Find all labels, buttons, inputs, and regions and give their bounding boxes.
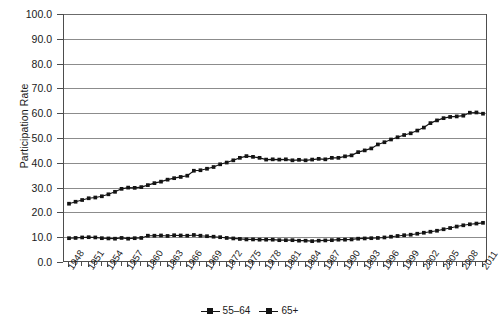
series-marker xyxy=(231,158,235,162)
legend-label: 65+ xyxy=(281,306,298,316)
series-marker xyxy=(429,230,433,234)
series-marker xyxy=(251,238,255,242)
y-tick-label: 0.0 xyxy=(37,257,52,267)
series-marker xyxy=(448,226,452,230)
series-marker xyxy=(363,149,367,153)
series-marker xyxy=(435,119,439,123)
y-tick-label: 30.0 xyxy=(32,183,52,193)
series-marker xyxy=(304,239,308,243)
series-marker xyxy=(435,229,439,233)
series-marker xyxy=(238,237,242,241)
series-marker xyxy=(448,115,452,119)
series-marker xyxy=(139,236,143,240)
series-marker xyxy=(475,111,479,115)
series-marker xyxy=(271,157,275,161)
series-marker xyxy=(297,239,301,243)
series-marker xyxy=(264,158,268,162)
series-marker xyxy=(284,238,288,242)
participation-rate-line-chart: Participation Rate 100.090.080.070.060.0… xyxy=(0,0,499,324)
series-marker xyxy=(100,236,104,240)
y-tick-label: 40.0 xyxy=(32,158,52,168)
series-marker xyxy=(133,186,137,190)
series-marker xyxy=(120,187,124,191)
series-marker xyxy=(172,233,176,237)
series-marker xyxy=(468,222,472,226)
series-marker xyxy=(277,238,281,242)
series-marker xyxy=(126,237,130,241)
series-marker xyxy=(133,236,137,240)
series-marker xyxy=(442,227,446,231)
series-marker xyxy=(179,175,183,179)
series-marker xyxy=(389,138,393,142)
series-marker xyxy=(350,238,354,242)
series-marker xyxy=(139,185,143,189)
series-marker xyxy=(67,202,71,206)
series-marker xyxy=(356,237,360,241)
series-marker xyxy=(100,194,104,198)
series-marker xyxy=(409,131,413,135)
series-marker xyxy=(369,147,373,151)
series-marker xyxy=(93,196,97,200)
legend-item-1[interactable]: 55–64 xyxy=(201,306,251,316)
series-marker xyxy=(87,196,91,200)
series-marker xyxy=(113,190,117,194)
x-axis-tick-labels: 1948195119541957196019631966196919721975… xyxy=(63,266,487,306)
legend-item-2[interactable]: 65+ xyxy=(259,306,298,316)
series-marker xyxy=(159,180,163,184)
series-marker xyxy=(461,114,465,118)
series-marker xyxy=(323,239,327,243)
series-marker xyxy=(258,156,262,160)
series-marker xyxy=(442,116,446,120)
series-marker xyxy=(166,178,170,182)
series-marker xyxy=(153,181,157,185)
y-tick-label: 10.0 xyxy=(32,232,52,242)
series-marker xyxy=(271,238,275,242)
series-marker xyxy=(277,158,281,162)
series-marker xyxy=(159,234,163,238)
series-marker xyxy=(258,238,262,242)
series-marker xyxy=(304,158,308,162)
series-marker xyxy=(192,169,196,173)
legend-marker-icon xyxy=(201,307,220,316)
series-marker xyxy=(402,133,406,137)
series-marker xyxy=(422,126,426,130)
series-marker xyxy=(455,115,459,119)
series-marker xyxy=(291,158,295,162)
series-marker xyxy=(455,225,459,229)
series-marker xyxy=(337,238,341,242)
series-marker xyxy=(146,183,150,187)
y-tick-label: 60.0 xyxy=(32,108,52,118)
series-marker xyxy=(468,111,472,115)
series-marker xyxy=(323,157,327,161)
legend-marker-icon xyxy=(259,307,278,316)
series-marker xyxy=(264,238,268,242)
series-marker xyxy=(330,156,334,160)
series-marker xyxy=(310,158,314,162)
series-marker xyxy=(67,236,71,240)
series-marker xyxy=(80,236,84,240)
series-marker xyxy=(74,236,78,240)
series-marker xyxy=(166,234,170,238)
series-marker xyxy=(356,150,360,154)
series-marker xyxy=(343,238,347,242)
series-marker xyxy=(291,238,295,242)
series-marker xyxy=(80,198,84,202)
series-marker xyxy=(212,165,216,169)
y-tick-label: 50.0 xyxy=(32,133,52,143)
series-marker xyxy=(218,162,222,166)
y-tick-label: 80.0 xyxy=(32,59,52,69)
series-marker xyxy=(185,234,189,238)
series-marker xyxy=(422,231,426,235)
series-marker xyxy=(415,232,419,236)
series-marker xyxy=(107,237,111,241)
series-marker xyxy=(172,176,176,180)
y-axis-tick-labels: 100.090.080.070.060.050.040.030.020.010.… xyxy=(0,0,59,276)
series-marker xyxy=(199,234,203,238)
series-marker xyxy=(383,140,387,144)
series-marker xyxy=(376,236,380,240)
series-marker xyxy=(87,235,91,239)
series-marker xyxy=(481,221,485,225)
series-marker xyxy=(475,222,479,226)
series-layer xyxy=(64,14,488,262)
series-line-1 xyxy=(69,112,483,203)
